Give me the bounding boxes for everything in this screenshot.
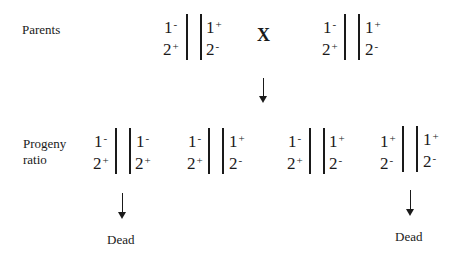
chromosome-bar	[416, 126, 418, 172]
allele: 1-	[188, 133, 201, 150]
allele: 2-	[329, 155, 342, 172]
allele: 2+	[187, 155, 203, 172]
progeny-label: Progeny ratio	[23, 136, 66, 168]
chromosome-bar	[344, 14, 346, 60]
chromosome-bar	[402, 126, 404, 172]
chromosome-bar	[115, 128, 117, 174]
dead-label-left: Dead	[107, 232, 134, 248]
allele: 2+	[93, 155, 109, 172]
allele: 1-	[94, 133, 107, 150]
chromosome-bar	[222, 128, 224, 174]
allele: 1-	[323, 19, 336, 36]
allele: 1+	[329, 133, 345, 150]
chromosome-bar	[358, 14, 360, 60]
allele: 1-	[136, 133, 149, 150]
chromosome-bar	[200, 14, 202, 60]
progeny-label-line2: ratio	[23, 152, 66, 168]
allele: 1+	[365, 19, 381, 36]
allele: 2-	[365, 41, 378, 58]
chromosome-bar	[186, 14, 188, 60]
allele: 1+	[206, 19, 222, 36]
parents-label: Parents	[22, 22, 60, 38]
dead-label-right: Dead	[395, 229, 422, 245]
down-arrow-icon	[122, 193, 123, 213]
allele: 2-	[380, 155, 393, 172]
chromosome-bar	[129, 128, 131, 174]
allele: 2+	[287, 155, 303, 172]
down-arrow-icon	[263, 78, 264, 97]
allele: 1-	[164, 19, 177, 36]
down-arrow-icon	[410, 190, 411, 210]
allele: 2+	[322, 41, 338, 58]
allele: 1+	[423, 131, 439, 148]
chromosome-bar	[309, 128, 311, 174]
allele: 1+	[229, 133, 245, 150]
allele: 2+	[163, 41, 179, 58]
allele: 2-	[229, 155, 242, 172]
allele: 2-	[423, 153, 436, 170]
allele: 1+	[380, 133, 396, 150]
allele: 2+	[135, 155, 151, 172]
allele: 1-	[288, 133, 301, 150]
chromosome-bar	[323, 128, 325, 174]
chromosome-bar	[208, 128, 210, 174]
allele: 2-	[206, 41, 219, 58]
cross-symbol: X	[257, 25, 270, 46]
progeny-label-line1: Progeny	[23, 136, 66, 152]
